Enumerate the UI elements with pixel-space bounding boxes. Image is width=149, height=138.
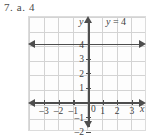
equation-value: 4 — [121, 16, 126, 27]
x-tick-label-2: 2 — [111, 106, 123, 116]
equation-annotation: y = 4 — [106, 16, 126, 27]
plotted-line-arrow-right-icon — [139, 40, 146, 48]
x-tick-label-3: 3 — [126, 106, 138, 116]
y-tick-label-2: 2 — [72, 69, 84, 79]
x-tick-3 — [132, 100, 133, 105]
y-tick-2 — [86, 73, 91, 74]
x-tick-1 — [103, 100, 104, 105]
y-tick-1 — [86, 88, 91, 89]
x-tick-neg1 — [73, 100, 74, 105]
y-tick-label-1: 1 — [72, 83, 84, 93]
x-axis-label: x — [140, 104, 144, 114]
x-tick-neg3 — [44, 100, 45, 105]
coordinate-graph: –3 –2 –1 1 2 3 0 4 3 2 1 –1 –2 y x y = 4 — [28, 16, 146, 131]
y-axis-label: y — [79, 17, 83, 27]
x-tick-label-1: 1 — [97, 106, 109, 116]
y-tick-3 — [86, 59, 91, 60]
y-axis-arrow-down-icon — [84, 121, 92, 128]
plotted-line-y-equals-4 — [32, 44, 142, 46]
x-axis-line — [32, 102, 142, 104]
x-tick-label-neg2: –2 — [53, 106, 65, 116]
y-axis-arrow-up-icon — [84, 16, 92, 23]
origin-label: 0 — [91, 104, 96, 114]
y-tick-neg2 — [86, 132, 91, 133]
problem-label: 7. a. 4 — [4, 1, 35, 14]
x-tick-neg2 — [59, 100, 60, 105]
y-tick-label-neg1: –1 — [72, 113, 84, 123]
x-axis-arrow-left-icon — [28, 99, 35, 107]
y-tick-neg1 — [86, 117, 91, 118]
y-tick-label-3: 3 — [72, 54, 84, 64]
y-tick-label-4: 4 — [72, 40, 84, 50]
x-tick-label-neg3: –3 — [38, 106, 50, 116]
y-tick-label-neg2: –2 — [72, 127, 84, 137]
x-tick-2 — [117, 100, 118, 105]
plotted-line-arrow-left-icon — [28, 40, 35, 48]
